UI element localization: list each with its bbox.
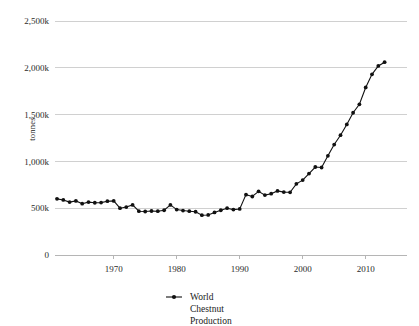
series-markers-group	[55, 60, 386, 217]
data-point	[106, 199, 110, 203]
y-tick-label: 500k	[31, 203, 50, 213]
data-point	[169, 203, 173, 207]
y-tick-label: 2,000k	[24, 63, 49, 73]
data-point	[307, 172, 311, 176]
y-tick-label: 0	[45, 250, 50, 260]
x-tick-labels-group: 19701980199020002010	[105, 264, 376, 274]
legend-marker-icon	[172, 295, 176, 299]
data-point	[250, 195, 254, 199]
data-point	[276, 189, 280, 193]
legend-label-line-1: World	[190, 292, 214, 302]
data-point	[112, 199, 116, 203]
chart-container: tonnes 0500k1,000k1,500k2,000k2,500k 197…	[0, 0, 419, 326]
data-point	[313, 165, 317, 169]
data-point	[131, 203, 135, 207]
y-tick-labels-group: 0500k1,000k1,500k2,000k2,500k	[24, 16, 49, 260]
data-point	[61, 198, 65, 202]
data-point	[269, 192, 273, 196]
data-point	[150, 209, 154, 213]
x-tick-marks-group	[114, 255, 366, 259]
y-tick-label: 1,500k	[24, 110, 49, 120]
data-point	[87, 200, 91, 204]
x-tick-label: 2000	[294, 264, 313, 274]
data-point	[383, 60, 387, 64]
data-point	[124, 205, 128, 209]
data-point	[156, 209, 160, 213]
data-point	[376, 64, 380, 68]
data-point	[301, 178, 305, 182]
y-tick-label: 2,500k	[24, 16, 49, 26]
series-group	[55, 60, 386, 217]
data-point	[219, 208, 223, 212]
x-tick-label: 1970	[105, 264, 124, 274]
data-point	[370, 72, 374, 76]
x-tick-label: 2010	[357, 264, 376, 274]
data-point	[68, 200, 72, 204]
data-point	[143, 210, 147, 214]
data-point	[93, 201, 97, 205]
data-point	[345, 123, 349, 127]
data-point	[206, 213, 210, 217]
legend-label-line-2: Chestnut	[190, 304, 224, 314]
data-point	[232, 208, 236, 212]
data-point	[332, 143, 336, 147]
data-point	[351, 111, 355, 115]
line-chart-plot: 0500k1,000k1,500k2,000k2,500k 1970198019…	[0, 0, 419, 326]
data-point	[55, 197, 59, 201]
data-point	[282, 190, 286, 194]
data-point	[238, 207, 242, 211]
data-point	[225, 206, 229, 210]
data-point	[137, 209, 141, 213]
data-point	[295, 182, 299, 186]
data-point	[118, 206, 122, 210]
data-point	[358, 102, 362, 106]
data-point	[244, 193, 248, 197]
data-point	[288, 190, 292, 194]
gridlines-group	[55, 21, 407, 255]
data-point	[162, 208, 166, 212]
data-point	[320, 166, 324, 170]
data-point	[194, 210, 198, 214]
x-tick-label: 1980	[168, 264, 187, 274]
data-point	[175, 208, 179, 212]
data-point	[181, 209, 185, 213]
data-point	[263, 193, 267, 197]
data-point	[74, 199, 78, 203]
data-point	[339, 133, 343, 137]
series-line-world-chestnut-production	[57, 62, 385, 215]
x-tick-label: 1990	[231, 264, 250, 274]
data-point	[187, 209, 191, 213]
data-point	[326, 154, 330, 158]
data-point	[80, 202, 84, 206]
legend[interactable]: World Chestnut Production	[166, 292, 232, 326]
y-tick-label: 1,000k	[24, 157, 49, 167]
data-point	[364, 86, 368, 90]
data-point	[257, 189, 261, 193]
data-point	[213, 211, 217, 215]
legend-label-line-3: Production	[190, 316, 232, 326]
data-point	[99, 201, 103, 205]
data-point	[200, 213, 204, 217]
